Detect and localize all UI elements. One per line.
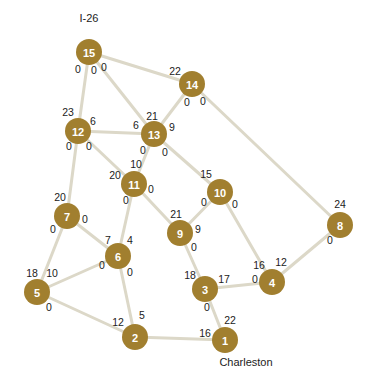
node-label: 4 [269,277,276,289]
edge-value-label: 17 [218,273,230,285]
edge-value-label: 0 [46,301,52,313]
edge-value-label: 20 [54,191,66,203]
edge-2-1 [135,337,225,340]
edge-value-label: 18 [26,267,38,279]
edge-value-label: 21 [146,110,158,122]
edge-value-label: 23 [62,106,74,118]
node-1[interactable]: 1 [212,327,238,353]
edge-value-label: 10 [130,158,142,170]
node-label: 1 [222,335,228,347]
node-9[interactable]: 9 [167,220,193,246]
node-label: 6 [115,251,121,263]
node-label: 3 [202,284,208,296]
edge-value-label: 0 [50,223,56,235]
node-label: 8 [337,220,343,232]
edge-5-2 [37,292,135,337]
edge-value-label: 10 [46,267,58,279]
node-2[interactable]: 2 [122,324,148,350]
node-label: 9 [177,228,183,240]
nodes-layer: 151412131110789653421 [24,39,353,353]
node-15[interactable]: 15 [76,39,102,65]
edge-value-label: 0 [327,234,333,246]
edge-value-label: 0 [127,266,133,278]
edge-value-label: 0 [101,61,107,73]
node-label: 7 [64,211,70,223]
edge-value-label: 12 [112,316,124,328]
edge-value-label: 22 [224,314,236,326]
node-label: 14 [186,79,199,91]
edge-13-10 [154,134,220,192]
edge-value-label: 0 [191,241,197,253]
edge-value-label: 9 [169,121,175,133]
node-label: 11 [128,179,140,191]
edge-value-label: 0 [184,96,190,108]
edge-value-label: 0 [91,64,97,76]
edge-value-label: 6 [90,115,96,127]
edge-value-label: 18 [184,269,196,281]
edge-value-label: 0 [200,95,206,107]
node-10[interactable]: 10 [207,179,233,205]
edge-value-label: 0 [75,63,81,75]
node-4[interactable]: 4 [259,269,285,295]
edge-value-label: 0 [201,196,207,208]
edge-value-label: 0 [82,213,88,225]
node-label: 13 [148,129,160,141]
edge-value-label: 9 [195,223,201,235]
edge-value-label: 15 [200,168,212,180]
node-7[interactable]: 7 [54,203,80,229]
edge-value-label: 0 [99,259,105,271]
edge-value-label: 0 [140,144,146,156]
edge-value-label: 4 [127,234,133,246]
edge-14-8 [192,84,340,225]
edge-value-label: 21 [170,208,182,220]
network-diagram: 151412131110789653421 000220023662190000… [0,0,375,386]
edge-value-label: 0 [66,140,72,152]
edge-value-label: 0 [162,146,168,158]
edge-value-label: 24 [334,198,346,210]
edge-value-label: 20 [109,169,121,181]
node-label: 15 [83,47,95,59]
edge-values-layer: 0002200236621900001020015000200242190074… [26,61,346,339]
place-label-i-26: I-26 [80,12,99,24]
node-label: 12 [72,126,84,138]
edge-15-13 [89,52,154,134]
edge-value-label: 0 [148,183,154,195]
edge-value-label: 0 [123,194,129,206]
node-14[interactable]: 14 [179,71,205,97]
edge-value-label: 16 [199,327,211,339]
node-label: 10 [214,187,226,199]
edge-value-label: 0 [204,301,210,313]
edge-value-label: 22 [169,65,181,77]
place-label-charleston: Charleston [219,356,272,368]
edge-value-label: 5 [139,309,145,321]
node-3[interactable]: 3 [192,276,218,302]
node-label: 5 [34,287,40,299]
edge-value-label: 12 [275,256,287,268]
edge-value-label: 0 [86,140,92,152]
edge-value-label: 0 [252,273,258,285]
edge-value-label: 0 [232,198,238,210]
edge-value-label: 7 [105,234,111,246]
node-label: 2 [132,332,138,344]
edge-value-label: 16 [253,259,265,271]
edge-value-label: 6 [133,119,139,131]
